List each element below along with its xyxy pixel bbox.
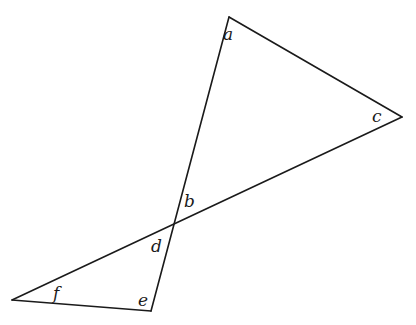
edge-bottom-left-bottom — [12, 300, 151, 311]
angle-label-b: b — [184, 191, 195, 211]
line-top-to-bottom — [151, 17, 229, 311]
angle-label-a: a — [223, 24, 233, 44]
line-right-to-bottom-left — [12, 117, 402, 300]
angle-label-d: d — [151, 236, 162, 256]
edge-top-right — [229, 17, 402, 117]
geometry-diagram: a c b d f e — [0, 0, 416, 325]
angle-label-f: f — [51, 283, 62, 303]
angle-label-c: c — [372, 106, 382, 126]
angle-label-e: e — [138, 290, 148, 310]
